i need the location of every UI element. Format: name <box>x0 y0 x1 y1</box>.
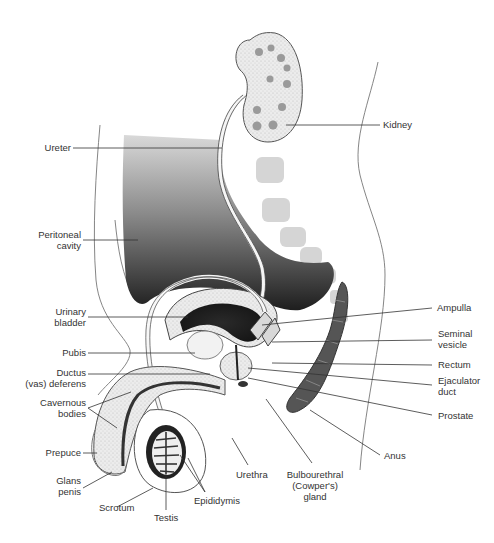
anatomy-illustration <box>0 0 494 543</box>
label-scrotum: Scrotum <box>99 502 134 513</box>
label-urethra: Urethra <box>236 469 268 480</box>
testis <box>146 425 186 479</box>
label-pubis: Pubis <box>20 347 86 358</box>
label-kidney: Kidney <box>383 119 412 130</box>
label-prepuce: Prepuce <box>10 447 81 458</box>
label-rectum: Rectum <box>438 359 471 370</box>
label-ureter: Ureter <box>35 142 71 153</box>
label-testis: Testis <box>154 512 178 523</box>
label-seminal-vesicle: Seminalvesicle <box>438 328 472 350</box>
peritoneal-cavity <box>123 135 334 310</box>
label-urinary-bladder: Urinarybladder <box>20 306 86 328</box>
label-ductus-deferens: Ductus(vas) deferens <box>10 367 86 389</box>
pubis <box>187 331 223 359</box>
label-epididymis: Epididymis <box>194 495 240 506</box>
kidney <box>236 33 302 142</box>
label-anus: Anus <box>384 450 406 461</box>
label-glans-penis: Glanspenis <box>10 475 81 497</box>
label-bulbourethral-gland: Bulbourethral(Cowper's)gland <box>283 469 347 502</box>
label-ejaculator-duct: Ejaculatorduct <box>438 375 480 397</box>
label-prostate: Prostate <box>438 410 473 421</box>
label-ampulla: Ampulla <box>437 302 471 313</box>
label-peritoneal-cavity: Peritonealcavity <box>20 229 81 251</box>
label-cavernous-bodies: Cavernousbodies <box>10 397 86 419</box>
